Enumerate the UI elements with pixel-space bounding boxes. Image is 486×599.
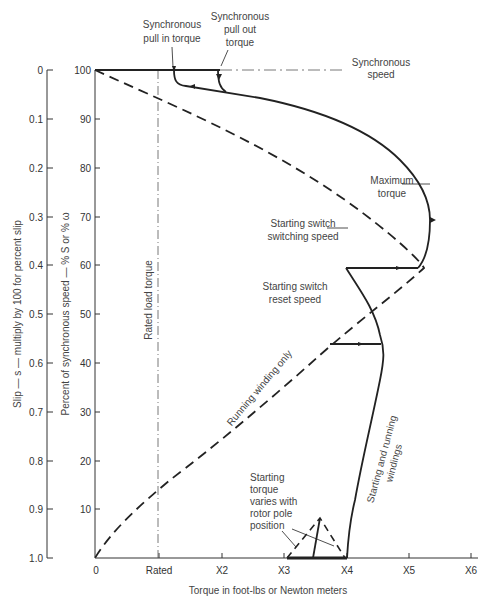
slip-tick: 0.3 — [29, 212, 43, 223]
sync-speed-label: Synchronous — [352, 57, 410, 68]
speed-tick: 60 — [80, 260, 92, 271]
reset-speed-label-2: reset speed — [269, 294, 321, 305]
start-torque-label-3: varies with — [250, 496, 297, 507]
slip-axis-label: Slip — s — multiply by 100 for percent s… — [12, 220, 23, 408]
switching-speed-label-2: switching speed — [267, 231, 338, 242]
start-torque-label-2: torque — [250, 484, 279, 495]
speed-tick: 90 — [80, 114, 92, 125]
max-torque-label-2: torque — [378, 188, 407, 199]
start-torque-label-5: position — [250, 520, 284, 531]
pull-out-curve — [218, 70, 226, 92]
start-torque-label-4: rotor pole — [250, 508, 293, 519]
pull-out-label-3: torque — [226, 37, 255, 48]
slip-tick: 0.5 — [29, 309, 43, 320]
torque-speed-chart: 0 0.1 0.2 0.3 0.4 0.5 0.6 0.7 0.8 0.9 1.… — [0, 0, 486, 599]
x-axis-label: Torque in foot-lbs or Newton meters — [189, 585, 347, 596]
slip-tick: 0.1 — [29, 114, 43, 125]
slip-axis — [47, 70, 53, 558]
speed-tick: 100 — [74, 65, 91, 76]
sync-speed-label-2: speed — [367, 69, 394, 80]
x-tick: X2 — [216, 565, 229, 576]
pull-in-label-2: pull in torque — [143, 33, 201, 44]
speed-axis — [95, 70, 100, 558]
slip-tick: 0 — [37, 65, 43, 76]
x-tick: 0 — [93, 565, 99, 576]
x-tick: X5 — [403, 565, 416, 576]
slip-tick: 0.8 — [29, 456, 43, 467]
pull-in-label: Synchronous — [143, 19, 201, 30]
rated-load-label: Rated load torque — [143, 260, 154, 340]
x-tick: X4 — [341, 565, 354, 576]
slip-tick: 0.2 — [29, 163, 43, 174]
pull-out-label: Synchronous — [211, 11, 269, 22]
x-tick: Rated — [146, 565, 173, 576]
x-tick: X6 — [465, 565, 478, 576]
slip-tick: 0.4 — [29, 260, 43, 271]
speed-tick: 20 — [80, 456, 92, 467]
slip-tick: 1.0 — [29, 553, 43, 564]
switching-speed-label: Starting switch — [270, 218, 335, 229]
x-tick-labels: 0 Rated X2 X3 X4 X5 X6 — [93, 565, 477, 576]
speed-tick: 30 — [80, 407, 92, 418]
running-winding-label: Running winding only — [225, 348, 295, 428]
slip-tick: 0.6 — [29, 358, 43, 369]
starting-running-curve — [346, 268, 383, 558]
speed-tick: 50 — [80, 309, 92, 320]
speed-axis-label: Percent of synchronous speed — % S or % … — [60, 212, 71, 415]
pull-out-label-2: pull out — [224, 24, 256, 35]
reset-speed-label: Starting switch — [262, 281, 327, 292]
x-tick: X3 — [278, 565, 291, 576]
speed-tick: 40 — [80, 358, 92, 369]
speed-tick: 70 — [80, 212, 92, 223]
speed-tick: 10 — [80, 504, 92, 515]
slip-tick-labels: 0 0.1 0.2 0.3 0.4 0.5 0.6 0.7 0.8 0.9 1.… — [29, 65, 43, 564]
speed-tick-labels: 100 90 80 70 60 50 40 30 20 10 — [74, 65, 91, 515]
start-torque-label: Starting — [250, 472, 284, 483]
slip-tick: 0.7 — [29, 407, 43, 418]
slip-tick: 0.9 — [29, 504, 43, 515]
x-axis — [95, 553, 478, 558]
speed-tick: 80 — [80, 163, 92, 174]
